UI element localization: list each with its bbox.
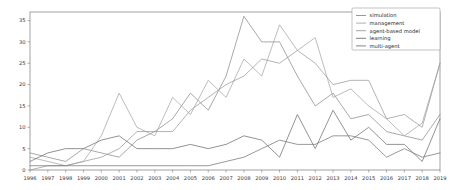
chart-legend: simulationmanagementagent-based modellea… xyxy=(352,8,440,50)
x-tick-label: 2016 xyxy=(380,175,393,181)
x-tick-label: 2010 xyxy=(273,175,286,181)
x-tick-label: 2007 xyxy=(219,175,232,181)
y-tick-label: 35 xyxy=(19,17,26,23)
x-tick-label: 2008 xyxy=(237,175,250,181)
x-tick-label: 2015 xyxy=(362,175,375,181)
x-tick-label: 2002 xyxy=(130,175,143,181)
y-tick-label: 15 xyxy=(19,103,26,109)
x-tick-label: 2001 xyxy=(113,175,126,181)
y-axis-ticks: 05101520253035 xyxy=(19,17,30,172)
x-tick-label: 2011 xyxy=(291,175,304,181)
x-tick-label: 2000 xyxy=(95,175,108,181)
x-tick-label: 2013 xyxy=(326,175,339,181)
x-tick-label: 1997 xyxy=(41,175,54,181)
x-tick-label: 2004 xyxy=(166,175,180,181)
y-tick-label: 5 xyxy=(22,146,25,152)
x-axis-ticks: 1996199719981999200020012002200320042005… xyxy=(23,170,446,181)
legend-label-2: agent-based model xyxy=(370,28,420,35)
x-tick-label: 1999 xyxy=(77,175,90,181)
legend-label-1: management xyxy=(370,20,405,27)
y-tick-label: 10 xyxy=(19,124,26,130)
x-tick-label: 2003 xyxy=(148,175,161,181)
series-line-2 xyxy=(30,50,440,170)
x-tick-label: 2009 xyxy=(255,175,268,181)
y-tick-label: 20 xyxy=(19,81,26,87)
y-tick-label: 0 xyxy=(22,167,25,173)
legend-label-4: multi-agent xyxy=(370,43,400,50)
x-tick-label: 2019 xyxy=(433,175,446,181)
chart-svg: 05101520253035 1996199719981999200020012… xyxy=(0,0,454,190)
x-tick-label: 2012 xyxy=(309,175,322,181)
x-tick-label: 1996 xyxy=(23,175,36,181)
x-tick-label: 2017 xyxy=(398,175,411,181)
x-tick-label: 2018 xyxy=(416,175,429,181)
x-tick-label: 1998 xyxy=(59,175,72,181)
series-line-3 xyxy=(30,110,440,161)
x-tick-label: 2005 xyxy=(184,175,197,181)
y-tick-label: 25 xyxy=(19,60,26,66)
x-tick-label: 2006 xyxy=(202,175,215,181)
y-tick-label: 30 xyxy=(19,39,26,45)
x-tick-label: 2014 xyxy=(344,175,358,181)
legend-label-0: simulation xyxy=(370,12,397,18)
legend-label-3: learning xyxy=(370,35,391,42)
line-chart: 05101520253035 1996199719981999200020012… xyxy=(0,0,454,190)
